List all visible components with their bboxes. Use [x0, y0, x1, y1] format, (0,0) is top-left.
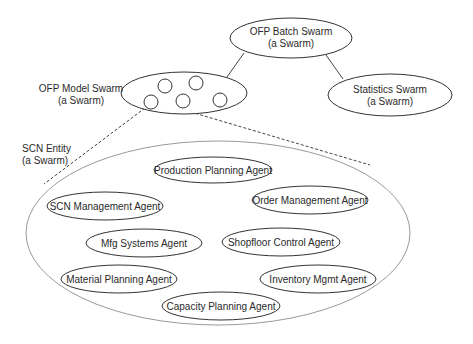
- swarm-member-circle: [213, 93, 227, 107]
- agent-mfg-systems[interactable]: Mfg Systems Agent: [86, 229, 202, 257]
- agent-order-management[interactable]: Order Management Agent: [252, 186, 368, 214]
- statistics-swarm-name: Statistics Swarm: [353, 84, 427, 95]
- agent-scn-management[interactable]: SCN Management Agent: [47, 192, 163, 220]
- swarm-member-circle: [189, 76, 203, 90]
- agent-label: Inventory Mgmt Agent: [269, 274, 366, 285]
- agent-label: Order Management Agent: [252, 195, 367, 206]
- agent-inventory-mgmt[interactable]: Inventory Mgmt Agent: [260, 265, 376, 293]
- ofp-model-swarm-node[interactable]: [121, 72, 247, 114]
- ofp-model-swarm-type: (a Swarm): [58, 95, 104, 106]
- agent-label: Production Planning Agent: [154, 165, 272, 176]
- agent-capacity-planning[interactable]: Capacity Planning Agent: [162, 292, 280, 320]
- ofp-batch-swarm-node[interactable]: OFP Batch Swarm (a Swarm): [230, 18, 352, 58]
- ofp-model-swarm-name: OFP Model Swarm: [39, 83, 123, 94]
- agent-production-planning[interactable]: Production Planning Agent: [154, 157, 272, 183]
- statistics-swarm-node[interactable]: Statistics Swarm (a Swarm): [328, 74, 452, 116]
- agent-label: Capacity Planning Agent: [167, 301, 276, 312]
- swarm-member-circle: [158, 79, 172, 93]
- link-batch-to-statistics: [326, 55, 343, 79]
- agent-shopfloor-control[interactable]: Shopfloor Control Agent: [222, 228, 340, 256]
- swarm-hierarchy-diagram: OFP Batch Swarm (a Swarm) Statistics Swa…: [0, 0, 473, 344]
- swarm-member-circle: [144, 95, 158, 109]
- swarm-member-circle: [176, 94, 190, 108]
- scn-entity-type: (a Swarm): [22, 155, 68, 166]
- ofp-batch-swarm-name: OFP Batch Swarm: [250, 26, 333, 37]
- agent-label: Mfg Systems Agent: [101, 238, 187, 249]
- statistics-swarm-type: (a Swarm): [367, 96, 413, 107]
- link-batch-to-model: [227, 53, 244, 77]
- agent-label: Material Planning Agent: [66, 274, 172, 285]
- agent-material-planning[interactable]: Material Planning Agent: [61, 265, 177, 293]
- scn-entity-name: SCN Entity: [22, 143, 71, 154]
- agent-label: Shopfloor Control Agent: [228, 237, 334, 248]
- ofp-batch-swarm-type: (a Swarm): [268, 38, 314, 49]
- agent-label: SCN Management Agent: [50, 201, 161, 212]
